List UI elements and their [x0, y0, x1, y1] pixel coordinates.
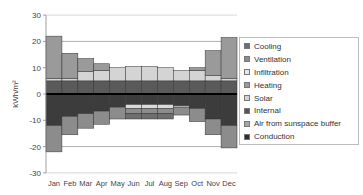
- bar-segment: [189, 70, 205, 81]
- bar-segment: [142, 81, 158, 94]
- bar-segment: [94, 81, 110, 94]
- bar-segment: [78, 58, 94, 71]
- y-tick-label: 20: [32, 37, 41, 46]
- bar-segment: [157, 81, 173, 94]
- bar-segment: [94, 111, 110, 124]
- bar-segment: [62, 116, 78, 134]
- chart-legend: CoolingVentilationInfiltrationHeatingSol…: [239, 37, 359, 145]
- y-tick-label: 0: [37, 90, 42, 99]
- x-tick-label: Jun: [127, 179, 139, 188]
- legend-swatch-icon: [244, 43, 250, 49]
- bar-segment: [189, 108, 205, 121]
- x-tick-label: Aug: [159, 179, 172, 188]
- bar-segment: [46, 36, 62, 78]
- bar-segment: [62, 94, 78, 116]
- y-axis-label: kWh/m²: [11, 80, 20, 108]
- bar-segment: [94, 94, 110, 111]
- bar-segment: [110, 81, 126, 94]
- bar-segment: [142, 66, 158, 80]
- bar-segment: [142, 114, 158, 119]
- x-tick-label: Jan: [48, 179, 60, 188]
- legend-label: Infiltration: [254, 68, 289, 77]
- bar-segment: [46, 94, 62, 126]
- bar-segment: [110, 107, 126, 119]
- x-tick-label: Dec: [222, 179, 236, 188]
- bar-segment: [46, 81, 62, 94]
- legend-swatch-icon: [244, 121, 250, 127]
- bar-segment: [205, 51, 221, 76]
- bar-segment: [221, 37, 237, 78]
- bar-segment: [157, 68, 173, 81]
- legend-label: Internal: [254, 106, 281, 115]
- bar-segment: [46, 78, 62, 81]
- bar-segment: [173, 70, 189, 81]
- legend-label: Conduction: [254, 132, 294, 141]
- bar-segment: [126, 81, 142, 94]
- x-tick-label: Mar: [79, 179, 92, 188]
- bar-segment: [205, 76, 221, 81]
- bar-segment: [205, 94, 221, 119]
- bar-segment: [189, 94, 205, 108]
- bar-segment: [173, 94, 189, 106]
- y-tick-label: -30: [29, 169, 41, 178]
- bar-segment: [110, 68, 126, 81]
- bar-segment: [205, 119, 221, 135]
- bar-segment: [221, 81, 237, 94]
- legend-item: Ventilation: [244, 53, 358, 66]
- legend-label: Ventilation: [254, 55, 291, 64]
- y-tick-label: -20: [29, 143, 41, 152]
- bar-segment: [221, 126, 237, 148]
- bar-segment: [62, 81, 78, 94]
- legend-swatch-icon: [244, 82, 250, 88]
- legend-item: Solar: [244, 92, 358, 105]
- bar-segment: [189, 68, 205, 71]
- x-tick-label: Jul: [145, 179, 155, 188]
- bar-segment: [110, 94, 126, 107]
- bar-segment: [157, 94, 173, 105]
- bar-segment: [126, 108, 142, 113]
- legend-item: Heating: [244, 79, 358, 92]
- bar-segment: [94, 70, 110, 81]
- legend-swatch-icon: [244, 56, 250, 62]
- bar-segment: [78, 81, 94, 94]
- bar-segment: [126, 94, 142, 105]
- bar-segment: [157, 108, 173, 113]
- bar-segment: [142, 108, 158, 113]
- bar-segment: [221, 94, 237, 126]
- bar-segment: [78, 94, 94, 114]
- y-tick-label: 10: [32, 64, 41, 73]
- legend-label: Cooling: [254, 42, 281, 51]
- x-tick-label: Nov: [206, 179, 220, 188]
- legend-label: Solar: [254, 94, 273, 103]
- y-tick-label: -10: [29, 116, 41, 125]
- bar-segment: [126, 105, 142, 109]
- legend-item: Cooling: [244, 40, 358, 53]
- bar-segment: [205, 81, 221, 94]
- y-tick-label: 30: [32, 11, 41, 20]
- bar-segment: [157, 114, 173, 119]
- bar-segment: [126, 66, 142, 80]
- x-tick-label: Oct: [191, 179, 204, 188]
- legend-item: Infiltration: [244, 66, 358, 79]
- legend-item: Internal: [244, 104, 358, 117]
- x-tick-label: Sep: [175, 179, 188, 188]
- bar-segment: [62, 53, 78, 78]
- legend-item: Conduction: [244, 130, 358, 143]
- legend-label: Air from sunspace buffer: [254, 119, 341, 128]
- legend-label: Heating: [254, 81, 282, 90]
- bar-segment: [78, 72, 94, 81]
- bar-segment: [46, 126, 62, 152]
- legend-item: Air from sunspace buffer: [244, 117, 358, 130]
- bar-segment: [157, 105, 173, 109]
- x-tick-label: Apr: [96, 179, 108, 188]
- bar-segment: [142, 105, 158, 109]
- bar-segment: [173, 81, 189, 94]
- legend-swatch-icon: [244, 108, 250, 114]
- legend-swatch-icon: [244, 134, 250, 140]
- bar-segment: [78, 114, 94, 128]
- bar-segment: [189, 81, 205, 94]
- legend-swatch-icon: [244, 69, 250, 75]
- bar-segment: [62, 78, 78, 81]
- bar-segment: [126, 114, 142, 119]
- bar-segment: [173, 107, 189, 115]
